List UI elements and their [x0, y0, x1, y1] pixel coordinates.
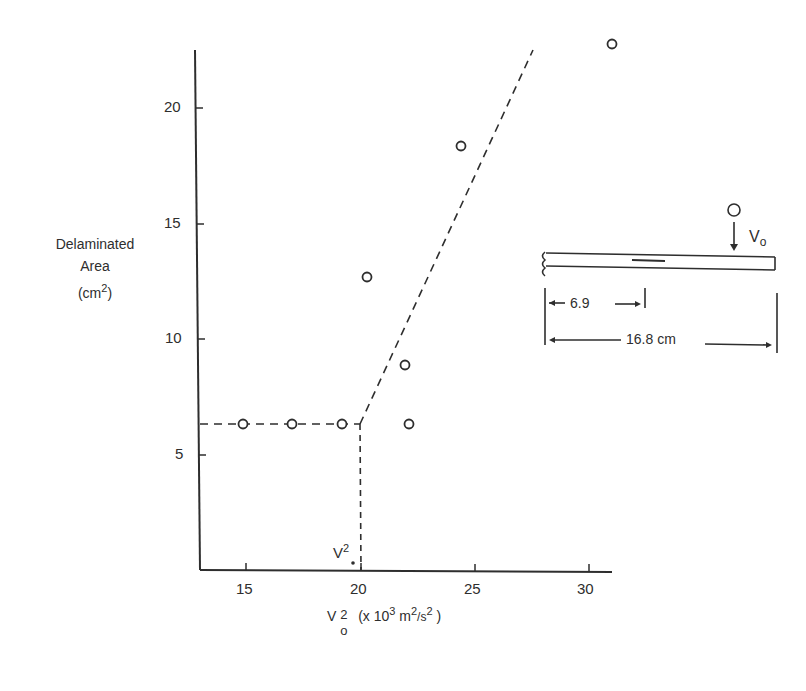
inset-beam-length: 16.8 cm — [626, 331, 676, 347]
x-axis — [200, 570, 612, 572]
ytick-label: 5 — [175, 445, 183, 462]
inset-delamination-length: 6.9 — [570, 295, 589, 311]
data-point — [239, 420, 248, 429]
data-point — [405, 420, 414, 429]
inset-velocity-label: Vo — [749, 228, 766, 249]
trend-lines — [200, 50, 533, 570]
trend-rising — [360, 50, 533, 424]
y-axis — [195, 50, 200, 570]
threshold-marker — [351, 561, 355, 565]
delamination-mark — [632, 260, 665, 261]
data-points — [239, 40, 617, 429]
xtick-label: 30 — [577, 580, 594, 597]
data-point — [363, 273, 372, 282]
threshold-drop — [360, 424, 361, 570]
ytick-label: 20 — [164, 98, 181, 115]
ytick-label: 10 — [165, 329, 182, 346]
y-axis-title: Delaminated Area (cm2) — [40, 233, 150, 304]
data-point — [608, 40, 617, 49]
ytick-label: 15 — [164, 214, 181, 231]
xtick-label: 15 — [236, 580, 253, 597]
data-point — [401, 361, 410, 370]
data-point — [288, 420, 297, 429]
impactor-ball — [728, 204, 740, 216]
clamp — [543, 252, 546, 276]
data-point — [457, 142, 466, 151]
xtick-label: 25 — [464, 580, 481, 597]
chart-canvas — [0, 0, 806, 691]
xtick-label: 20 — [350, 580, 367, 597]
threshold-label: V2 — [333, 542, 349, 561]
x-axis-title: V 2 o (x 103 m2/s2 ) — [327, 605, 441, 624]
data-point — [338, 420, 347, 429]
